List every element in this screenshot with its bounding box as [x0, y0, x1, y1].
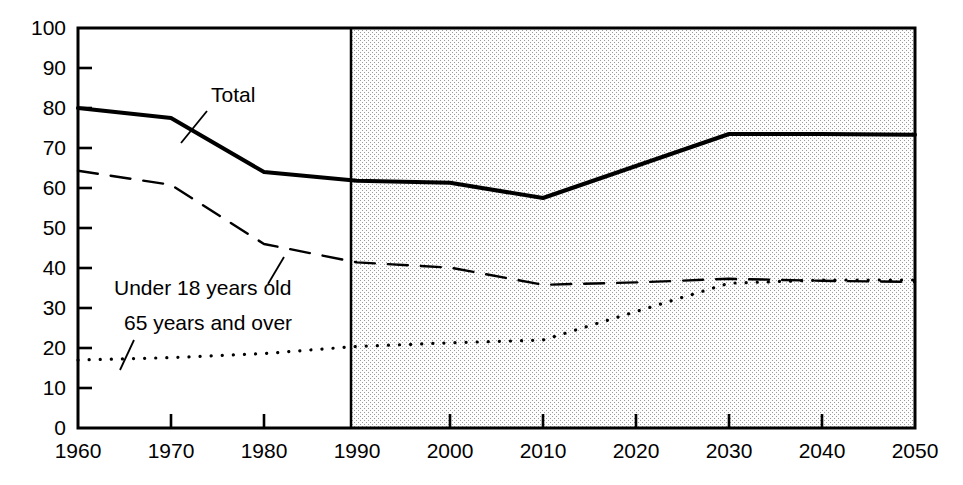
y-axis-tick-label: 0 [54, 416, 66, 439]
y-axis-tick-label: 40 [43, 256, 66, 279]
x-axis-tick-label: 2040 [799, 439, 846, 462]
x-axis-tick-label: 2020 [613, 439, 660, 462]
y-axis-tick-label: 70 [43, 136, 66, 159]
x-axis-tick-labels: 1960197019801990200020102020203020402050 [55, 439, 939, 462]
projection-shaded-region [351, 28, 915, 428]
y-axis-tick-label: 10 [43, 376, 66, 399]
population-dependency-line-chart: TotalUnder 18 years old65 years and over… [0, 0, 963, 485]
y-axis-tick-label: 80 [43, 96, 66, 119]
y-axis-tick-label: 100 [31, 16, 66, 39]
total-annotation-label: Total [211, 83, 255, 106]
y-axis-tick-label: 30 [43, 296, 66, 319]
y-axis-tick-label: 60 [43, 176, 66, 199]
under-18-annotation-label: Under 18 years old [114, 276, 291, 299]
x-axis-tick-label: 1960 [55, 439, 102, 462]
x-axis-tick-label: 2010 [520, 439, 567, 462]
x-axis-tick-label: 1980 [241, 439, 288, 462]
x-axis-tick-label: 2000 [427, 439, 474, 462]
x-axis-tick-label: 2030 [706, 439, 753, 462]
chart-container: TotalUnder 18 years old65 years and over… [0, 0, 963, 485]
y-axis-tick-labels: 0102030405060708090100 [31, 16, 66, 439]
x-axis-tick-label: 1970 [148, 439, 195, 462]
y-axis-tick-label: 50 [43, 216, 66, 239]
x-axis-tick-label: 2050 [892, 439, 939, 462]
x-axis-tick-label: 1990 [334, 439, 381, 462]
y-axis-tick-label: 90 [43, 56, 66, 79]
plot-background [78, 28, 915, 428]
y-axis-tick-label: 20 [43, 336, 66, 359]
65-and-over-annotation-label: 65 years and over [124, 311, 292, 334]
